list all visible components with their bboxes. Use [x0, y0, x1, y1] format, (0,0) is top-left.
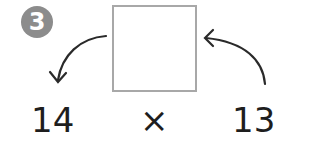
right-arrow-icon [205, 30, 265, 84]
operand-1: 14 [31, 100, 74, 140]
left-arrow-icon [50, 36, 106, 82]
operator-sign: × [140, 100, 169, 140]
operand-2: 13 [232, 100, 275, 140]
